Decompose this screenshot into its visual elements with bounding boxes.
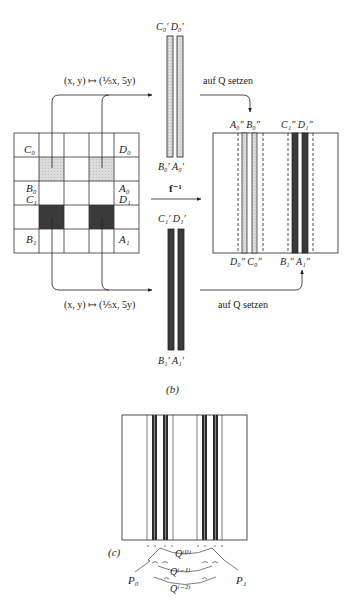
light-cell-right: [89, 157, 114, 181]
baker-map-figure: C₀ D₀ B₀ C₁ A₀ D₁ B₁ A₁ (x, y) ↦ (⅕x, 5y…: [0, 0, 350, 606]
strips-top-labels-top: C₀′ D₀′: [156, 21, 185, 32]
P1-label: P₁: [235, 574, 247, 586]
strips-top: [167, 36, 183, 157]
result-labels-bottom-left: D₀″ C₀″: [229, 256, 263, 267]
inverse-map-label: f⁻¹: [169, 182, 182, 194]
result-box: [213, 133, 338, 253]
label-C1: C₁: [26, 193, 37, 205]
set-on-Q-arrow-top: [200, 95, 250, 112]
Qm2-label: Q⁽⁻²⁾: [170, 583, 191, 594]
result-labels-top-left: A₀″ B₀″: [229, 119, 261, 130]
map-label-bottom: (x, y) ↦ (⅕x, 5y): [64, 299, 135, 311]
label-C0: C₀: [24, 143, 35, 155]
Qm1-label: Q⁽⁻¹⁾: [170, 566, 191, 577]
dark-cell-right: [89, 205, 114, 229]
strips-bottom-labels-bottom: B₁′ A₁′: [158, 355, 185, 366]
label-B1: B₁: [26, 233, 37, 245]
dark-cell-left: [39, 205, 64, 229]
strips-top-labels-bottom: B₀′ A₀′: [158, 161, 185, 172]
label-D1: D₁: [118, 193, 131, 205]
strips-bottom-labels-top: C₁′ D₁′: [158, 213, 187, 224]
map-label-top: (x, y) ↦ (⅕x, 5y): [64, 75, 135, 87]
Q0-label: Q⁽⁰⁾: [175, 548, 192, 559]
panel-c-ticks: [148, 545, 222, 547]
P0-label: P₀: [127, 574, 139, 586]
set-on-Q-label-top: auf Q setzen: [203, 75, 253, 86]
panel-c-caption: (c): [108, 546, 121, 559]
result-labels-top-right: C₁″ D₁″: [281, 119, 314, 130]
label-A1: A₁: [118, 233, 130, 245]
result-labels-bottom-right: B₁″ A₁″: [280, 256, 311, 267]
source-grid: C₀ D₀ B₀ C₁ A₀ D₁ B₁ A₁: [14, 133, 139, 253]
panel-b-caption: (b): [166, 383, 179, 396]
light-cell-left: [39, 157, 64, 181]
strips-bottom: [168, 229, 184, 350]
label-D0: D₀: [118, 143, 131, 155]
set-on-Q-arrow-bottom: [200, 270, 302, 290]
set-on-Q-label-bottom: auf Q setzen: [218, 299, 268, 310]
panel-c-box: [122, 415, 247, 540]
